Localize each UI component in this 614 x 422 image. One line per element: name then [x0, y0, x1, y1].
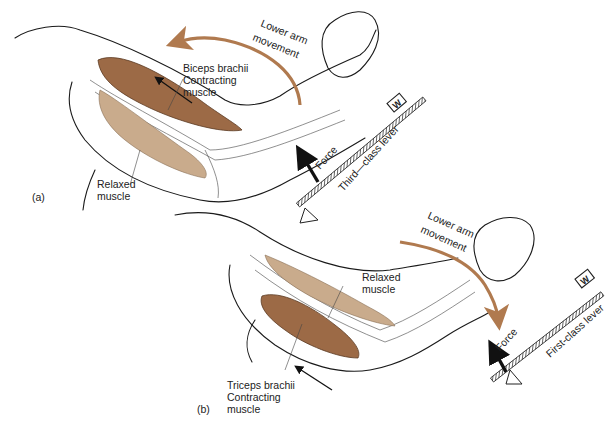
biceps-label-line2: Contracting: [183, 74, 237, 86]
panel-b: [175, 213, 604, 390]
lever-label-a: Third—class lever: [336, 122, 401, 193]
diagram-canvas: Lower arm movement Biceps brachii Contra…: [0, 0, 614, 422]
relaxed-label-b-line2: muscle: [362, 283, 395, 295]
triceps-label-line3: muscle: [227, 403, 260, 415]
biceps-label-line1: Biceps brachii: [183, 62, 248, 74]
panel-label-b: (b): [197, 403, 210, 415]
panel-label-a: (a): [32, 191, 45, 203]
relaxed-label-a-line2: muscle: [97, 190, 130, 202]
labels-panel-a: Lower arm movement Biceps brachii Contra…: [32, 17, 404, 203]
relaxed-label-b-line1: Relaxed: [362, 271, 401, 283]
contraction-arrow-b: [298, 368, 332, 390]
upper-arm-outline-b: [175, 213, 458, 271]
force-label-b: Force: [493, 325, 520, 353]
movement-arrow-b: [400, 242, 498, 318]
arm-lever-diagram: Lower arm movement Biceps brachii Contra…: [0, 0, 614, 422]
upper-arm-lower-outline-b: [229, 265, 490, 371]
force-label-a: Force: [313, 143, 340, 171]
biceps-label-line3: muscle: [183, 86, 216, 98]
labels-panel-b: Lower arm movement Relaxed muscle Tricep…: [197, 209, 606, 415]
panel-a: [15, 12, 426, 223]
triceps-label-line1: Triceps brachii: [227, 379, 295, 391]
fulcrum-a: [300, 208, 318, 223]
triceps-label-line2: Contracting: [227, 391, 281, 403]
relaxed-label-a-line1: Relaxed: [97, 178, 136, 190]
fulcrum-b: [506, 370, 522, 384]
back-line-a: [83, 170, 95, 210]
fist-b: [474, 217, 534, 280]
fist-a: [322, 12, 379, 78]
